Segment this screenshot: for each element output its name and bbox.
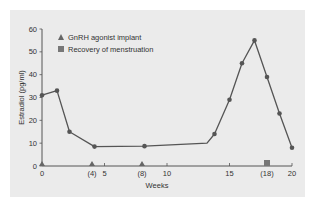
x-tick-label: 20 — [288, 169, 296, 178]
data-point — [142, 144, 147, 149]
gnrh-implant-marker — [39, 161, 45, 166]
y-tick-label: 60 — [29, 25, 37, 34]
data-point — [240, 61, 245, 66]
x-ticks: 0(4)5(8)1015(18)20 — [40, 163, 296, 178]
x-tick-label: 15 — [225, 169, 233, 178]
y-tick-label: 10 — [29, 139, 37, 148]
data-point — [67, 129, 72, 134]
data-point — [212, 132, 217, 137]
gnrh-implant-marker — [139, 161, 145, 166]
data-point — [290, 145, 295, 150]
x-tick-label: 5 — [102, 169, 106, 178]
x-tick-label: (8) — [137, 169, 147, 178]
series — [40, 38, 295, 150]
data-point — [265, 75, 270, 80]
gnrh-implant-marker — [89, 161, 95, 166]
data-point — [227, 97, 232, 102]
legend-label-gnrh: GnRH agonist implant — [68, 33, 142, 42]
y-tick-label: 50 — [29, 47, 37, 56]
data-point — [277, 111, 282, 116]
y-tick-label: 40 — [29, 70, 37, 79]
y-tick-label: 30 — [29, 93, 37, 102]
y-axis-title: Estradiol (pg/ml) — [17, 70, 26, 125]
data-point — [40, 93, 45, 98]
x-tick-label: (18) — [260, 169, 274, 178]
x-tick-label: (4) — [87, 169, 97, 178]
series-line — [42, 40, 292, 147]
x-axis-title: Weeks — [146, 181, 169, 190]
y-tick-label: 20 — [29, 116, 37, 125]
data-point — [252, 38, 257, 43]
data-point — [92, 144, 97, 149]
legend-triangle-icon — [58, 34, 64, 40]
y-tick-label: 0 — [33, 162, 37, 171]
x-tick-label: 10 — [163, 169, 171, 178]
event-markers — [39, 160, 270, 166]
legend-square-icon — [58, 46, 64, 52]
legend-label-menstruation: Recovery of menstruation — [68, 45, 153, 54]
legend: GnRH agonist implant Recovery of menstru… — [58, 33, 153, 54]
menstruation-marker — [264, 160, 270, 166]
estradiol-chart: 0102030405060 0(4)5(8)1015(18)20 Estradi… — [0, 0, 313, 210]
data-point — [55, 88, 60, 93]
x-tick-label: 0 — [40, 169, 44, 178]
y-ticks: 0102030405060 — [29, 25, 42, 171]
